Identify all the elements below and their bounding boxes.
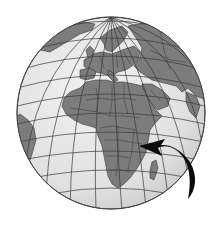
globe-figure: Grayscale globe showing Africa, Europe a… bbox=[0, 0, 222, 226]
globe-illustration: East Africa bbox=[0, 0, 222, 226]
